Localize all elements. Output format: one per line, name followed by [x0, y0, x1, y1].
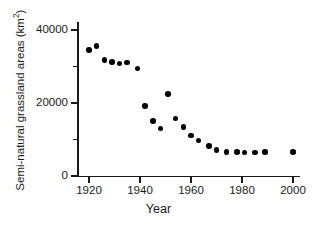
y-axis-title-tail: )	[14, 10, 26, 14]
data-point	[102, 57, 108, 63]
y-tick-label: 40000	[36, 24, 68, 36]
x-tick-label: 2000	[280, 185, 306, 197]
chart-figure: 02000040000 19201940196019802000 Year Se…	[0, 0, 317, 227]
x-tick	[139, 177, 141, 183]
data-point	[262, 149, 268, 155]
data-point	[234, 149, 240, 155]
data-point	[252, 150, 258, 156]
y-axis-title: Semi-natural grassland areas (km2)	[13, 21, 26, 191]
x-tick-label: 1940	[127, 185, 153, 197]
y-axis-title-superscript: 2	[12, 13, 21, 18]
x-tick-label: 1960	[178, 185, 204, 197]
x-tick	[241, 177, 243, 183]
data-point	[109, 59, 115, 65]
x-tick-label: 1980	[229, 185, 255, 197]
data-point	[150, 118, 156, 124]
x-tick	[292, 177, 294, 183]
x-tick	[190, 177, 192, 183]
y-axis-title-base: Semi-natural grassland areas (km	[14, 18, 26, 191]
data-point	[165, 91, 171, 97]
x-tick	[88, 177, 90, 183]
x-tick-label: 1920	[76, 185, 102, 197]
y-tick-label: 0	[62, 170, 68, 182]
data-point	[142, 103, 148, 109]
data-point	[206, 143, 212, 149]
y-tick-label: 20000	[36, 97, 68, 109]
data-point	[188, 133, 194, 139]
data-point	[290, 149, 296, 155]
data-point	[214, 147, 220, 153]
data-point	[86, 47, 92, 53]
data-point	[181, 124, 187, 130]
x-axis-title: Year	[0, 203, 317, 216]
